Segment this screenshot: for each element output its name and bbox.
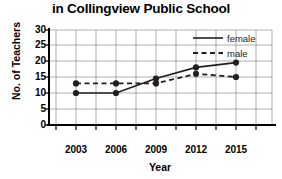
line-chart: in Collingview Public School No. of Teac… [0, 0, 282, 179]
chart-legend: female male [193, 33, 256, 59]
legend-label-female: female [227, 33, 256, 44]
legend-label-male: male [227, 48, 248, 59]
chart-plot-area: female male [0, 0, 282, 179]
vertical-gridlines [56, 30, 272, 125]
